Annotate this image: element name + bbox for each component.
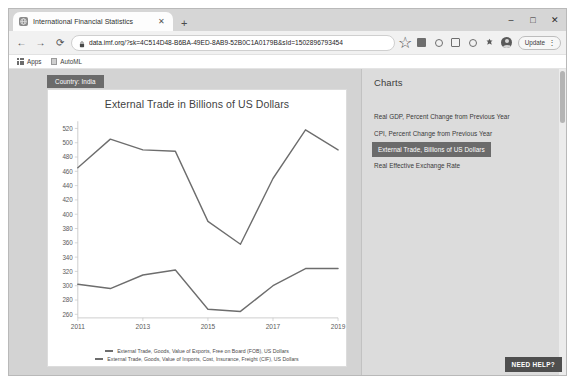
legend-entry-imports: External Trade, Goods, Value of Imports,… [95,356,298,362]
forward-button[interactable]: → [33,35,48,50]
maximize-button[interactable]: □ [522,9,544,31]
browser-toolbar: ← → ⟳ data.imf.org/?sk=4C514D48-B6BA-49E… [9,31,566,55]
bookmark-apps[interactable]: Apps [17,58,41,65]
bookmark-star-icon[interactable]: ☆ [399,37,411,49]
charts-list: Real GDP, Percent Change from Previous Y… [362,108,566,174]
extensions-puzzle-icon[interactable] [484,37,496,49]
update-button[interactable]: Update ⋮ [518,36,561,50]
close-window-button[interactable]: ✕ [544,9,566,31]
globe-icon [19,17,28,26]
charts-heading: Charts [362,69,566,88]
tab-title: International Financial Statistics [33,18,151,25]
chart-list-item-label: External Trade, Billions of US Dollars [378,146,485,153]
legend-label-imports: External Trade, Goods, Value of Imports,… [107,356,298,362]
window-controls: – □ ✕ [500,9,566,31]
svg-text:440: 440 [62,182,73,189]
bookmark-apps-label: Apps [27,58,41,65]
tab-close-icon[interactable]: ✕ [156,18,167,26]
address-bar[interactable]: data.imf.org/?sk=4C514D48-B6BA-49ED-8AB9… [71,35,395,51]
chart-card: External Trade in Billions of US Dollars… [47,89,347,367]
scrollbar-thumb[interactable] [560,71,565,123]
series-line-0 [78,130,338,244]
svg-text:480: 480 [62,153,73,160]
extension-icon-2[interactable] [433,37,445,49]
plot-area: 2602803003203403603804004204404604805005… [48,115,346,366]
svg-text:2015: 2015 [201,323,216,330]
svg-text:2013: 2013 [136,323,151,330]
browser-tab[interactable]: International Financial Statistics ✕ [13,12,173,31]
browser-window: International Financial Statistics ✕ + –… [8,8,567,376]
bookmark-automl-label: AutoML [60,58,82,65]
line-chart-svg: 2602803003203403603804004204404604805005… [48,115,346,366]
legend-entry-exports: External Trade, Goods, Value of Exports,… [105,348,289,354]
chart-region: Country: India External Trade in Billion… [9,69,361,375]
svg-text:520: 520 [62,125,73,132]
update-label: Update [525,39,545,46]
url-text: data.imf.org/?sk=4C514D48-B6BA-49ED-8AB9… [89,39,343,46]
bookmarks-bar: Apps AutoML [9,55,566,69]
legend-label-exports: External Trade, Goods, Value of Exports,… [117,348,289,354]
svg-text:300: 300 [62,282,73,289]
svg-text:360: 360 [62,239,73,246]
country-tab[interactable]: Country: India [47,75,104,88]
svg-text:2017: 2017 [266,323,281,330]
chart-list-item-0[interactable]: Real GDP, Percent Change from Previous Y… [362,108,566,125]
extension-icon-3[interactable] [450,37,462,49]
svg-text:340: 340 [62,253,73,260]
extension-icon-1[interactable] [416,37,428,49]
page-scrollbar[interactable] [559,69,566,375]
svg-text:500: 500 [62,139,73,146]
chart-list-item-2[interactable]: External Trade, Billions of US Dollars [372,142,491,157]
back-button[interactable]: ← [14,35,29,50]
chart-list-item-label: Real GDP, Percent Change from Previous Y… [374,113,510,120]
lock-icon [79,34,85,52]
svg-text:260: 260 [62,311,73,318]
series-line-1 [78,269,338,312]
chart-legend: External Trade, Goods, Value of Exports,… [48,348,346,362]
svg-text:400: 400 [62,210,73,217]
profile-avatar-icon[interactable] [501,37,513,49]
browser-menu-icon[interactable]: ⋮ [548,38,555,47]
chart-list-item-3[interactable]: Real Effective Exchange Rate [362,157,566,174]
svg-text:460: 460 [62,168,73,175]
svg-text:280: 280 [62,296,73,303]
svg-text:320: 320 [62,268,73,275]
legend-swatch-exports [105,350,113,351]
legend-swatch-imports [95,358,103,359]
charts-sidebar: Charts Real GDP, Percent Change from Pre… [361,69,566,375]
need-help-button[interactable]: NEED HELP? [505,357,562,372]
extension-icon-4[interactable] [467,37,479,49]
reload-button[interactable]: ⟳ [52,35,67,50]
svg-text:420: 420 [62,196,73,203]
svg-text:2011: 2011 [71,323,85,330]
svg-text:380: 380 [62,225,73,232]
page-viewport: Country: India External Trade in Billion… [9,69,566,375]
apps-grid-icon [17,58,24,65]
chart-list-item-label: Real Effective Exchange Rate [374,162,460,169]
minimize-button[interactable]: – [500,9,522,31]
svg-text:2019: 2019 [331,323,346,330]
chart-title: External Trade in Billions of US Dollars [48,90,346,110]
bookmark-automl[interactable]: AutoML [51,58,82,65]
new-tab-button[interactable]: + [181,18,187,29]
tab-strip: International Financial Statistics ✕ + –… [9,9,566,31]
toolbar-icons: ☆ Update ⋮ [399,36,561,50]
chart-list-item-label: CPI, Percent Change from Previous Year [374,130,492,137]
chart-list-item-1[interactable]: CPI, Percent Change from Previous Year [362,125,566,142]
document-icon [51,58,57,65]
